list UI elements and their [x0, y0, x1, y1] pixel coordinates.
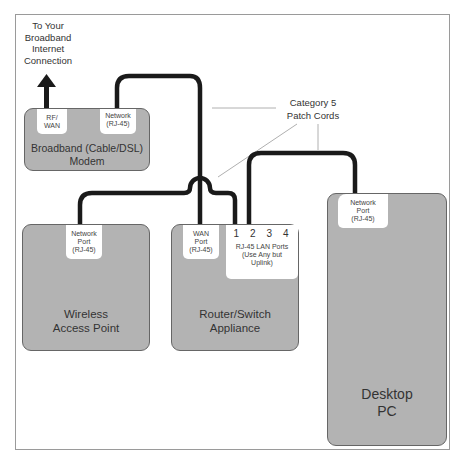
- ap-network-port: Network Port (RJ-45): [66, 225, 102, 259]
- desktop-network-port: Network Port (RJ-45): [338, 194, 388, 228]
- patch-cords-label: Category 5 Patch Cords: [278, 97, 348, 122]
- cable-router-to-ap: [80, 178, 235, 226]
- router-switch-appliance: WAN Port (RJ-45) 1 2 3 4 RJ-45 LAN Ports…: [171, 224, 299, 351]
- label-line: Internet: [8, 43, 88, 55]
- device-label-line: Modem: [25, 155, 149, 168]
- port-label: Port: [183, 238, 219, 246]
- router-wan-port: WAN Port (RJ-45): [183, 225, 219, 259]
- lan-port-1: 1: [233, 228, 239, 240]
- modem-network-port: Network (RJ-45): [100, 109, 136, 134]
- port-label: WAN: [37, 122, 67, 130]
- label-line: To Your: [8, 20, 88, 32]
- device-label-line: Router/Switch: [172, 307, 298, 321]
- port-label: RF/: [37, 114, 67, 122]
- port-label: RJ-45 LAN Ports: [226, 243, 298, 251]
- port-label: Network: [100, 112, 136, 120]
- ap-label: Wireless Access Point: [23, 307, 149, 335]
- router-lan-ports: 1 2 3 4 RJ-45 LAN Ports (Use Any but Upl…: [226, 225, 298, 279]
- label-line: Broadband: [8, 32, 88, 44]
- label-line: Patch Cords: [278, 110, 348, 123]
- port-label: WAN: [183, 230, 219, 238]
- desktop-label: Desktop PC: [328, 386, 446, 420]
- lan-port-3: 3: [266, 228, 272, 240]
- device-label-line: Access Point: [23, 321, 149, 335]
- router-label: Router/Switch Appliance: [172, 307, 298, 335]
- wireless-access-point: Network Port (RJ-45) Wireless Access Poi…: [22, 224, 150, 351]
- port-label: (RJ-45): [66, 246, 102, 254]
- port-label: Network: [66, 230, 102, 238]
- lan-port-caption: RJ-45 LAN Ports (Use Any but Uplink): [226, 243, 298, 267]
- label-line: Category 5: [278, 97, 348, 110]
- internet-arrow-icon: [37, 74, 56, 111]
- broadband-modem: RF/ WAN Network (RJ-45) Broadband (Cable…: [24, 108, 150, 171]
- modem-label: Broadband (Cable/DSL) Modem: [25, 142, 149, 168]
- port-label: (RJ-45): [338, 215, 388, 223]
- port-label: (Use Any but: [226, 251, 298, 259]
- modem-rf-wan-port: RF/ WAN: [37, 109, 67, 134]
- lan-port-4: 4: [283, 228, 289, 240]
- port-label: Uplink): [226, 259, 298, 267]
- lan-port-numbers: 1 2 3 4: [226, 228, 298, 240]
- device-label-line: Desktop: [328, 386, 446, 403]
- port-label: Network: [338, 199, 388, 207]
- device-label-line: Broadband (Cable/DSL): [25, 142, 149, 155]
- internet-connection-label: To Your Broadband Internet Connection: [8, 20, 88, 66]
- lan-port-2: 2: [250, 228, 256, 240]
- port-label: Port: [338, 207, 388, 215]
- device-label-line: PC: [328, 403, 446, 420]
- port-label: (RJ-45): [100, 120, 136, 128]
- port-label: (RJ-45): [183, 246, 219, 254]
- port-label: Port: [66, 238, 102, 246]
- label-line: Connection: [8, 55, 88, 67]
- device-label-line: Appliance: [172, 321, 298, 335]
- desktop-pc: Network Port (RJ-45) Desktop PC: [327, 193, 447, 446]
- device-label-line: Wireless: [23, 307, 149, 321]
